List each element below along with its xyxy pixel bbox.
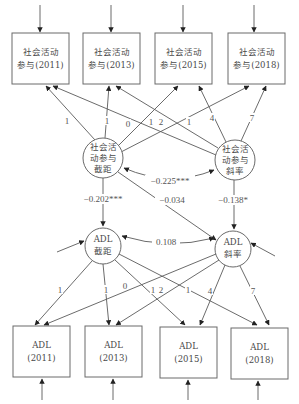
social-intercept-node: 社会活 动参与 截距	[83, 138, 123, 178]
bottom-error-arrows	[42, 379, 258, 400]
adl-intercept-node: ADL 截距	[85, 228, 121, 264]
bottom-box-2011: ADL (2011)	[13, 326, 70, 377]
svg-text:0: 0	[123, 281, 128, 291]
svg-text:ADL: ADL	[93, 234, 113, 244]
svg-text:斜率: 斜率	[226, 166, 244, 176]
svg-text:1: 1	[58, 285, 63, 295]
top-error-arrows	[40, 5, 254, 32]
svg-text:7: 7	[251, 286, 256, 296]
top-box-2018: 社会活动 参与(2018)	[228, 33, 285, 84]
svg-text:1: 1	[105, 116, 110, 126]
svg-text:截距: 截距	[94, 246, 112, 256]
top-box-2015: 社会活动 参与(2015)	[155, 33, 212, 84]
bottom-box-2015: ADL (2015)	[160, 327, 217, 378]
svg-text:(2013): (2013)	[99, 353, 127, 363]
svg-text:参与(2015): 参与(2015)	[160, 60, 206, 70]
svg-text:ADL: ADL	[223, 237, 243, 247]
svg-text:2: 2	[159, 285, 164, 295]
svg-text:参与(2013): 参与(2013)	[88, 60, 134, 70]
bottom-loading-labels: 1 1 1 1 0 2 4 7	[57, 281, 256, 296]
svg-text:1: 1	[65, 116, 70, 126]
social-slope-node: 社会活 动参与 斜率	[215, 140, 255, 180]
svg-text:社会活: 社会活	[90, 142, 117, 152]
svg-text:动参与: 动参与	[90, 153, 117, 163]
svg-text:社会活动: 社会活动	[239, 47, 275, 57]
svg-text:−0.225***: −0.225***	[151, 176, 190, 186]
svg-text:1: 1	[151, 285, 156, 295]
svg-text:社会活: 社会活	[222, 144, 249, 154]
svg-text:7: 7	[250, 113, 255, 123]
svg-text:1: 1	[104, 285, 109, 295]
svg-text:−0.202***: −0.202***	[84, 194, 123, 204]
svg-text:(2011): (2011)	[27, 353, 55, 363]
svg-text:(2018): (2018)	[245, 355, 273, 365]
growth-model-diagram: 社会活动 参与(2011) 社会活动 参与(2013) 社会活动 参与(2015…	[0, 0, 299, 404]
svg-text:ADL: ADL	[31, 340, 51, 350]
svg-text:−0.138*: −0.138*	[218, 195, 248, 205]
svg-text:1: 1	[186, 285, 191, 295]
svg-text:(2015): (2015)	[174, 354, 202, 364]
svg-text:−0.034: −0.034	[159, 195, 185, 205]
svg-text:社会活动: 社会活动	[23, 47, 59, 57]
svg-text:2: 2	[159, 117, 164, 127]
svg-text:1: 1	[149, 117, 154, 127]
adl-covariance-path: 0.108	[122, 236, 214, 247]
svg-text:社会活动: 社会活动	[166, 47, 202, 57]
social-covariance-path: −0.225***	[124, 168, 214, 186]
svg-text:0: 0	[126, 119, 131, 129]
svg-text:ADL: ADL	[178, 341, 198, 351]
adl-slope-node: ADL 斜率	[215, 231, 251, 267]
top-loading-labels: 1 1 1 1 0 2 4 7	[64, 113, 255, 129]
top-box-2011: 社会活动 参与(2011)	[12, 33, 69, 84]
svg-text:ADL: ADL	[249, 342, 269, 352]
svg-text:ADL: ADL	[103, 340, 123, 350]
svg-text:斜率: 斜率	[224, 249, 242, 259]
svg-text:4: 4	[210, 113, 215, 123]
svg-text:1: 1	[187, 117, 192, 127]
svg-text:截距: 截距	[94, 164, 112, 174]
svg-text:4: 4	[208, 286, 213, 296]
bottom-box-2018: ADL (2018)	[231, 328, 288, 379]
svg-text:社会活动: 社会活动	[94, 47, 130, 57]
svg-text:动参与: 动参与	[222, 155, 249, 165]
bottom-box-2013: ADL (2013)	[85, 326, 142, 377]
svg-text:0.108: 0.108	[156, 237, 177, 247]
svg-text:参与(2018): 参与(2018)	[233, 60, 279, 70]
top-box-2013: 社会活动 参与(2013)	[83, 33, 140, 84]
svg-text:参与(2011): 参与(2011)	[17, 60, 63, 70]
